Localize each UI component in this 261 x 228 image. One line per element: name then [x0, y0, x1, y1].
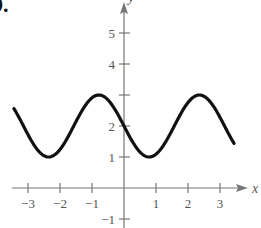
y-tick-label: 4: [109, 57, 116, 72]
y-tick-label: 1: [109, 150, 116, 165]
x-tick-label: 3: [217, 196, 224, 211]
axes: xy: [12, 0, 259, 228]
x-tick-label: 1: [153, 196, 160, 211]
x-tick-label: 2: [185, 196, 192, 211]
problem-number: 9.: [0, 0, 9, 17]
x-tick-label: −3: [21, 196, 35, 211]
x-axis-label: x: [251, 181, 259, 196]
y-tick-label: 5: [109, 26, 116, 41]
x-tick-label: −2: [53, 196, 67, 211]
function-graph: 9. xy −3−2−1123−11245: [0, 0, 261, 228]
y-tick-label: −1: [101, 212, 115, 227]
y-axis-label: y: [126, 0, 135, 5]
x-tick-label: −1: [85, 196, 99, 211]
problem-number-label: 9.: [0, 0, 9, 17]
y-tick-label: 2: [109, 119, 116, 134]
